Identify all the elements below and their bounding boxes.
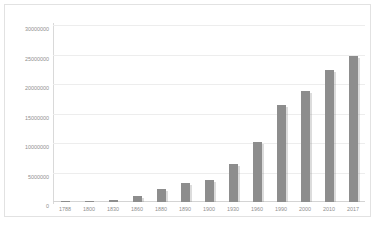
y-axis-tick-label: 10000000 [13, 144, 49, 150]
x-axis-tick-label: 1930 [221, 204, 245, 216]
x-axis-tick-label: 1880 [149, 204, 173, 216]
bar-slot [341, 25, 365, 202]
x-axis-tick-label: 1788 [53, 204, 77, 216]
bar[interactable] [205, 180, 214, 202]
bar-slot [269, 25, 293, 202]
y-axis-tick-label: 5000000 [13, 174, 49, 180]
bar[interactable] [325, 70, 334, 202]
x-axis-tick-labels: 1788180018301860188018901900193019601990… [53, 204, 365, 216]
bar[interactable] [85, 201, 94, 202]
y-axis-tick-label: 20000000 [13, 85, 49, 91]
y-axis-tick-label: 25000000 [13, 56, 49, 62]
bar-series [53, 25, 365, 202]
bar[interactable] [229, 164, 238, 202]
bar[interactable] [133, 196, 142, 202]
y-axis-tick-label: 0 [13, 203, 49, 209]
bar-slot [101, 25, 125, 202]
bar-slot [53, 25, 77, 202]
x-axis-tick-label: 2000 [293, 204, 317, 216]
x-axis-tick-label: 2017 [341, 204, 365, 216]
bar-slot [221, 25, 245, 202]
bar[interactable] [277, 105, 286, 202]
bar-slot [293, 25, 317, 202]
bar-slot [77, 25, 101, 202]
x-axis-tick-label: 1960 [245, 204, 269, 216]
y-axis-tick-label: 30000000 [13, 26, 49, 32]
bar-slot [149, 25, 173, 202]
bar[interactable] [61, 201, 70, 202]
bar-slot [197, 25, 221, 202]
y-axis-tick-label: 15000000 [13, 115, 49, 121]
x-axis-tick-label: 1890 [173, 204, 197, 216]
bar[interactable] [349, 56, 358, 202]
plot-area [53, 25, 365, 202]
chart-frame: 3000000025000000200000001500000010000000… [4, 4, 371, 217]
x-axis-tick-label: 1830 [101, 204, 125, 216]
bar-slot [125, 25, 149, 202]
bar[interactable] [109, 200, 118, 202]
x-axis-tick-label: 2010 [317, 204, 341, 216]
x-axis-tick-label: 1900 [197, 204, 221, 216]
bar[interactable] [181, 183, 190, 202]
x-axis-tick-label: 1990 [269, 204, 293, 216]
x-axis-tick-label: 1800 [77, 204, 101, 216]
bar[interactable] [253, 142, 262, 202]
bar[interactable] [301, 91, 310, 203]
bar[interactable] [157, 189, 166, 202]
bar-slot [173, 25, 197, 202]
figure-container: 3000000025000000200000001500000010000000… [0, 0, 381, 239]
bar-slot [317, 25, 341, 202]
x-axis-tick-label: 1860 [125, 204, 149, 216]
bar-slot [245, 25, 269, 202]
